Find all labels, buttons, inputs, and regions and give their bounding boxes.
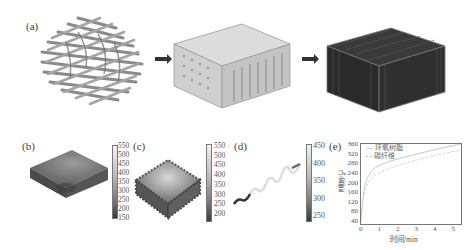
y-tick: 80	[344, 208, 358, 215]
y-tick: 120	[344, 199, 358, 206]
tick: 400	[118, 169, 129, 177]
legend-item-epoxy: — 环氧树脂	[366, 144, 403, 152]
y-tick: 280	[344, 160, 358, 167]
colorbar-e-ticks: 450 400 350 300 250	[313, 142, 325, 220]
tick: 150	[118, 214, 129, 222]
tick: 250	[313, 212, 325, 220]
transparent-matrix-cube	[172, 22, 292, 110]
tick: 450	[313, 142, 325, 150]
tick: 250	[214, 200, 225, 208]
panel-label-e: (e)	[329, 140, 341, 152]
tick: 450	[118, 160, 129, 168]
panel-label-a: (a)	[26, 20, 38, 32]
tick: 300	[118, 187, 129, 195]
colorbar-d-ticks: 550 500 450 400 350 300 250 200	[214, 142, 225, 218]
tick: 400	[214, 171, 225, 179]
fiber-lattice-illustration	[38, 12, 148, 107]
temperature-field-matrix	[26, 148, 110, 212]
tick: 550	[118, 142, 129, 150]
tick: 550	[214, 142, 225, 150]
x-tick: 3	[415, 225, 419, 233]
x-axis-label: 时间/min	[390, 233, 418, 244]
tick: 450	[214, 161, 225, 169]
tick: 500	[214, 152, 225, 160]
tick: 350	[313, 177, 325, 185]
tick: 300	[214, 191, 225, 199]
single-fiber-temperature	[230, 160, 305, 210]
colorbar-d	[206, 144, 212, 222]
meshed-composite-cube	[325, 26, 447, 114]
colorbar-e	[306, 144, 312, 222]
tick: 200	[214, 210, 225, 218]
x-tick: 5	[452, 225, 456, 233]
y-tick: 360	[344, 141, 358, 148]
panel-label-d: (d)	[234, 140, 247, 152]
y-tick: 320	[344, 151, 358, 158]
y-axis-label: 温度/℃	[337, 168, 347, 192]
tick: 200	[118, 205, 129, 213]
y-tick: 40	[344, 218, 358, 225]
x-tick: 4	[433, 225, 437, 233]
tick: 300	[313, 195, 325, 203]
arrow-right-icon	[302, 57, 314, 61]
legend-item-carbon-fiber: - - 碳纤维	[366, 152, 403, 160]
x-tick: 1	[378, 225, 382, 233]
x-tick: 0	[359, 225, 363, 233]
temperature-field-fibers	[132, 152, 204, 226]
tick: 350	[214, 181, 225, 189]
x-tick: 2	[396, 225, 400, 233]
tick: 350	[118, 178, 129, 186]
panel-label-c: (c)	[133, 140, 145, 152]
chart-legend: — 环氧树脂 - - 碳纤维	[366, 144, 403, 160]
colorbar-c-ticks: 550 500 450 400 350 300 250 200 150	[118, 142, 129, 222]
tick: 400	[313, 160, 325, 168]
arrow-right-icon	[155, 57, 167, 61]
tick: 250	[118, 196, 129, 204]
legend-label: 环氧树脂	[375, 144, 403, 152]
legend-label: 碳纤维	[374, 152, 395, 160]
x-axis-ticks: 0 1 2 3 4 5	[359, 225, 455, 233]
tick: 500	[118, 151, 129, 159]
